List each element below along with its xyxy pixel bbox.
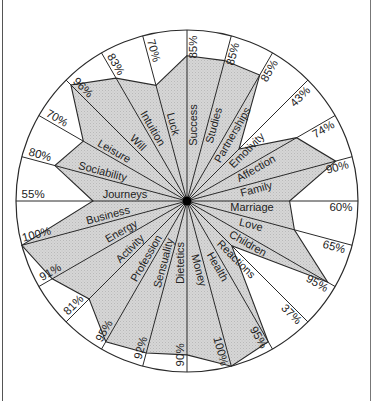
value-label: 60%: [329, 201, 352, 213]
value-label: 37%: [279, 302, 304, 327]
radar-chart: SuccessStudiesPartnershipsEmotivityAffec…: [0, 0, 374, 402]
category-label: Marriage: [230, 201, 273, 213]
value-label: 55%: [22, 188, 45, 200]
value-label: 95%: [304, 272, 330, 294]
category-label: Success: [187, 104, 199, 146]
value-label: 74%: [310, 118, 336, 140]
category-label: Journeys: [103, 188, 148, 200]
value-label: 65%: [321, 238, 346, 256]
value-label: 80%: [27, 146, 52, 164]
value-label: 81%: [61, 292, 86, 317]
value-label: 85%: [258, 58, 280, 84]
center-hub: [183, 197, 192, 206]
category-label: Dietetics: [174, 241, 186, 284]
value-label: 43%: [288, 84, 313, 109]
value-label: 85%: [187, 36, 199, 59]
value-label: 85%: [224, 41, 242, 66]
value-label: 90%: [174, 343, 186, 366]
value-label: 70%: [145, 38, 163, 63]
